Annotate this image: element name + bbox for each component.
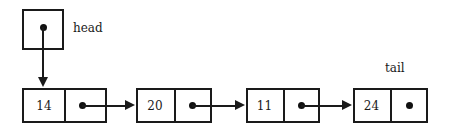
head-label: head bbox=[73, 22, 103, 34]
tail-label: tail bbox=[385, 62, 405, 74]
head-to-node1-arrowhead bbox=[38, 77, 48, 87]
node1-to-node2-arrowhead bbox=[125, 100, 135, 110]
node-next-pointer-dot bbox=[406, 102, 413, 109]
node-value: 24 bbox=[353, 100, 390, 112]
node1-to-node2-line bbox=[82, 105, 127, 107]
node-cell-divider bbox=[64, 88, 66, 123]
head-to-node1-line bbox=[42, 27, 44, 79]
node-value: 20 bbox=[136, 100, 174, 112]
node-cell-divider bbox=[390, 88, 392, 123]
node2-to-node3-line bbox=[192, 105, 237, 107]
node3-to-node4-line bbox=[301, 105, 344, 107]
node2-to-node3-arrowhead bbox=[235, 100, 245, 110]
node-cell-divider bbox=[283, 88, 285, 123]
node3-to-node4-arrowhead bbox=[342, 100, 352, 110]
linked-list-diagram: head tail 14 20 11 24 bbox=[0, 0, 450, 134]
node-cell-divider bbox=[174, 88, 176, 123]
node-value: 14 bbox=[24, 100, 64, 112]
node-value: 11 bbox=[246, 100, 283, 112]
